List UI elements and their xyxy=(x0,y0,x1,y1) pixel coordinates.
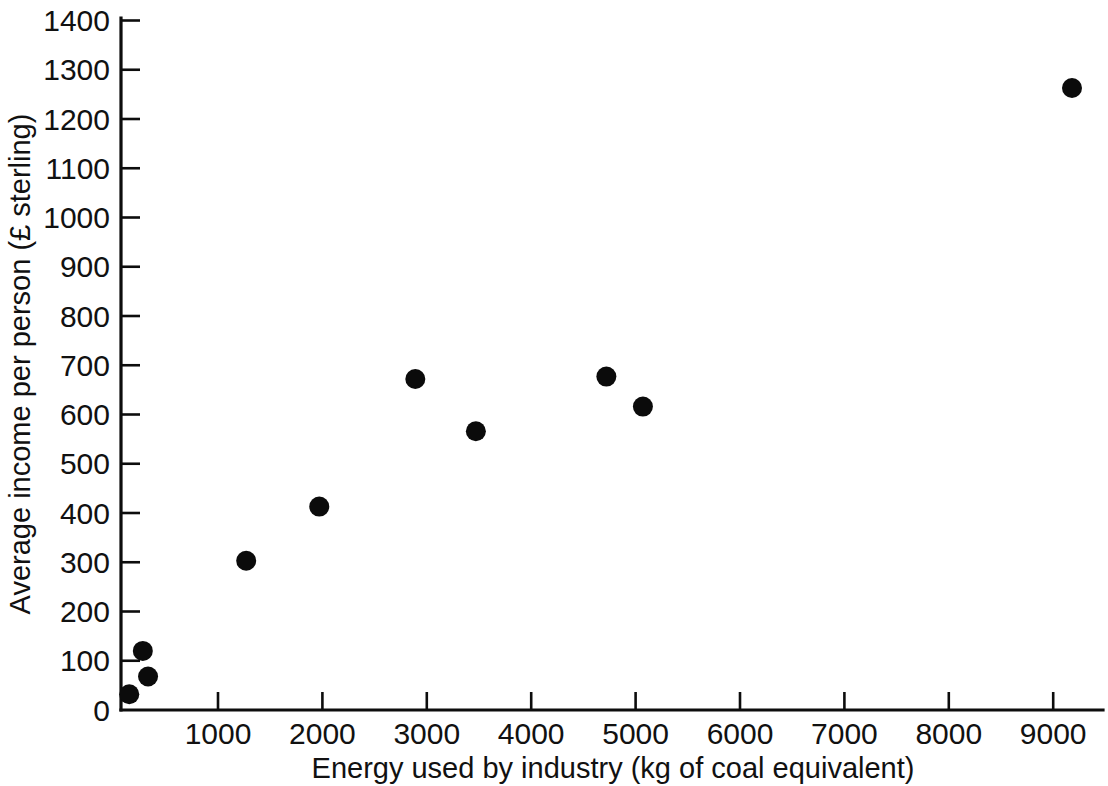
data-point xyxy=(236,551,256,571)
data-point xyxy=(596,367,616,387)
y-tick-label: 200 xyxy=(60,595,110,628)
data-point xyxy=(1062,78,1082,98)
x-tick-label: 6000 xyxy=(707,717,774,750)
x-tick-label: 1000 xyxy=(185,717,252,750)
x-axis-group: 100020003000400050006000700080009000 xyxy=(185,692,1087,750)
y-tick-label: 0 xyxy=(93,694,110,727)
y-tick-label: 700 xyxy=(60,349,110,382)
x-tick-label: 7000 xyxy=(811,717,878,750)
x-tick-label: 9000 xyxy=(1020,717,1087,750)
y-tick-label: 1200 xyxy=(43,103,110,136)
data-points-group xyxy=(119,78,1082,704)
y-tick-label: 1300 xyxy=(43,53,110,86)
data-point xyxy=(405,369,425,389)
data-point xyxy=(133,641,153,661)
data-point xyxy=(466,421,486,441)
y-tick-label: 600 xyxy=(60,398,110,431)
data-point xyxy=(309,497,329,517)
x-tick-label: 8000 xyxy=(915,717,982,750)
data-point xyxy=(633,397,653,417)
axis-lines xyxy=(121,18,1103,710)
y-tick-label: 1000 xyxy=(43,201,110,234)
y-tick-label: 900 xyxy=(60,250,110,283)
y-axis-group: 0100200300400500600700800900100011001200… xyxy=(43,4,140,727)
y-tick-label: 800 xyxy=(60,300,110,333)
y-tick-label: 1100 xyxy=(45,152,110,185)
x-tick-label: 3000 xyxy=(393,717,460,750)
scatter-plot-figure: 0100200300400500600700800900100011001200… xyxy=(0,0,1108,786)
data-point xyxy=(119,684,139,704)
x-tick-label: 2000 xyxy=(289,717,356,750)
y-tick-label: 500 xyxy=(60,447,110,480)
y-tick-label: 400 xyxy=(60,497,110,530)
y-tick-label: 1400 xyxy=(43,4,110,37)
x-tick-label: 4000 xyxy=(498,717,565,750)
y-tick-label: 300 xyxy=(60,546,110,579)
y-axis-title: Average income per person (£ sterling) xyxy=(4,114,36,615)
data-point xyxy=(138,667,158,687)
x-tick-label: 5000 xyxy=(602,717,669,750)
x-axis-title: Energy used by industry (kg of coal equi… xyxy=(312,752,915,784)
y-tick-label: 100 xyxy=(60,644,110,677)
plot-canvas: 0100200300400500600700800900100011001200… xyxy=(0,0,1108,786)
